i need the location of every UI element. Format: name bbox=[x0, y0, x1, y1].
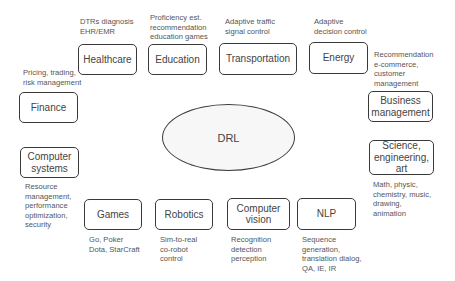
business-applications: Recommendation e-commerce, customer mana… bbox=[374, 50, 434, 88]
energy-applications: Adaptive decision control bbox=[314, 17, 367, 36]
domain-box-transportation: Transportation bbox=[219, 43, 297, 75]
domain-label: Energy bbox=[323, 52, 355, 64]
healthcare-applications: DTRs diagnosis EHR/EMR bbox=[80, 17, 134, 36]
domain-box-science-engineering-art: Science, engineering, art bbox=[369, 140, 434, 175]
transportation-applications: Adaptive traffic signal control bbox=[225, 17, 275, 36]
drl-center-ellipse: DRL bbox=[162, 104, 295, 171]
domain-box-education: Education bbox=[148, 44, 207, 75]
domain-label: Healthcare bbox=[83, 54, 131, 66]
domain-label: Computer systems bbox=[28, 151, 72, 174]
domain-box-healthcare: Healthcare bbox=[78, 44, 137, 75]
domain-label: Robotics bbox=[165, 209, 204, 221]
domain-label: Education bbox=[155, 54, 199, 66]
finance-applications: Pricing, trading, risk management bbox=[23, 68, 81, 87]
domain-box-computer-systems: Computer systems bbox=[20, 147, 79, 178]
domain-box-energy: Energy bbox=[309, 42, 368, 74]
domain-box-computer-vision: Computer vision bbox=[227, 198, 290, 230]
drl-label: DRL bbox=[217, 132, 239, 144]
nlp-applications: Sequence generation, translation dialog,… bbox=[302, 235, 362, 273]
robotics-applications: Sim-to-real co-robot control bbox=[160, 235, 197, 264]
domain-label: Finance bbox=[31, 102, 67, 114]
domain-label: Games bbox=[97, 209, 129, 221]
domain-box-nlp: NLP bbox=[297, 198, 356, 230]
science-applications: Math, physic, chemistry, music, drawing,… bbox=[373, 180, 431, 218]
domain-label: Computer vision bbox=[237, 203, 281, 226]
education-applications: Proficiency est. recommendation educatio… bbox=[150, 13, 208, 42]
domain-label: Business management bbox=[371, 95, 429, 118]
domain-label: Transportation bbox=[226, 53, 290, 65]
domain-box-finance: Finance bbox=[19, 92, 78, 123]
computer-systems-applications: Resource management, performance optimiz… bbox=[25, 182, 71, 230]
domain-box-business-management: Business management bbox=[368, 91, 433, 122]
games-applications: Go, Poker Dota, StarCraft bbox=[89, 235, 140, 254]
domain-box-games: Games bbox=[84, 199, 142, 230]
domain-box-robotics: Robotics bbox=[155, 199, 213, 230]
computer-vision-applications: Recognition detection perception bbox=[231, 235, 271, 264]
domain-label: NLP bbox=[317, 208, 336, 220]
domain-label: Science, engineering, art bbox=[374, 140, 429, 175]
